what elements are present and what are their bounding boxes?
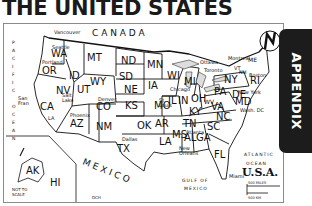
svg-text:Montreal: Montreal <box>228 55 250 61</box>
svg-text:NH: NH <box>239 69 247 75</box>
svg-text:Miami: Miami <box>229 173 244 179</box>
svg-text:New York: New York <box>238 89 261 95</box>
svg-text:CO: CO <box>96 101 111 112</box>
svg-text:LA: LA <box>159 136 172 147</box>
svg-text:Denver: Denver <box>98 96 117 102</box>
svg-text:Ottawa: Ottawa <box>200 59 218 65</box>
svg-text:Chicago: Chicago <box>170 86 190 93</box>
svg-text:MT: MT <box>87 52 103 63</box>
svg-text:IN: IN <box>178 95 188 106</box>
atlantic-label: ATLANTIC <box>244 152 274 157</box>
appendix-tab[interactable]: APPENDIX <box>279 29 312 153</box>
usa-map: C A N A D A M E X I C O PACIFIC OCEAN AT… <box>3 23 284 203</box>
svg-text:AZ: AZ <box>70 118 84 129</box>
svg-text:WV: WV <box>204 98 215 105</box>
compass-icon <box>260 31 280 51</box>
svg-text:Seattle: Seattle <box>52 44 70 50</box>
svg-text:PA: PA <box>214 86 226 97</box>
svg-text:ID: ID <box>69 70 80 81</box>
svg-text:FL: FL <box>214 149 226 160</box>
svg-text:ND: ND <box>121 55 136 66</box>
canada-label: C A N A D A <box>92 28 146 38</box>
svg-text:LA: LA <box>48 115 55 121</box>
pacific-label: PACIFIC OCEAN <box>12 40 19 141</box>
svg-text:Louis: Louis <box>159 102 172 108</box>
appendix-label: APPENDIX <box>288 53 303 130</box>
credit-label: DCH <box>92 195 101 200</box>
svg-text:Portland: Portland <box>42 59 63 65</box>
svg-text:Fran: Fran <box>18 100 29 106</box>
svg-text:KS: KS <box>125 100 138 111</box>
svg-text:WY: WY <box>90 76 107 87</box>
svg-text:MD: MD <box>235 96 252 107</box>
svg-text:NM: NM <box>96 121 112 132</box>
svg-text:OR: OR <box>42 65 57 76</box>
svg-text:SCALE: SCALE <box>12 192 25 197</box>
svg-text:SC: SC <box>207 121 220 132</box>
svg-text:IA: IA <box>148 80 158 91</box>
svg-text:Vancouver: Vancouver <box>54 29 81 35</box>
svg-text:CA: CA <box>40 101 54 112</box>
svg-text:MEXICO: MEXICO <box>184 186 208 191</box>
svg-text:TN: TN <box>182 118 197 129</box>
scale-km: 500 KM <box>248 196 261 200</box>
gulf-label: GULF OF <box>182 178 208 183</box>
scale-bar <box>247 184 280 195</box>
page-title: THE UNITED STATES <box>2 0 233 20</box>
scale-miles: 500 MILES <box>248 181 267 185</box>
svg-text:Phoenix: Phoenix <box>70 112 90 118</box>
svg-text:Wash. DC: Wash. DC <box>240 107 264 113</box>
svg-text:NY: NY <box>224 74 238 85</box>
state-labels: WA OR CA ID NV UT AZ MT WY CO NM ND SD N… <box>26 48 260 188</box>
svg-text:Lake: Lake <box>62 97 74 103</box>
svg-text:AK: AK <box>26 165 40 176</box>
svg-text:MN: MN <box>147 59 163 70</box>
svg-text:NC: NC <box>216 111 230 122</box>
svg-text:Toronto: Toronto <box>203 67 222 73</box>
map-drawing: C A N A D A M E X I C O PACIFIC OCEAN AT… <box>4 24 285 204</box>
svg-text:TX: TX <box>116 143 130 154</box>
svg-text:KY: KY <box>189 106 202 117</box>
svg-text:AR: AR <box>155 118 169 129</box>
svg-text:Boston: Boston <box>249 72 266 78</box>
svg-text:SD: SD <box>119 71 133 82</box>
svg-text:OK: OK <box>137 120 152 131</box>
svg-text:WI: WI <box>167 70 180 81</box>
svg-text:Orleans: Orleans <box>179 150 199 156</box>
mexico-label: M E X I C O <box>81 157 131 185</box>
svg-text:NE: NE <box>124 84 138 95</box>
svg-text:Dallas: Dallas <box>122 136 138 142</box>
country-label: U.S.A. <box>242 166 278 179</box>
svg-text:HI: HI <box>50 177 60 188</box>
svg-text:Atlanta: Atlanta <box>186 129 204 135</box>
